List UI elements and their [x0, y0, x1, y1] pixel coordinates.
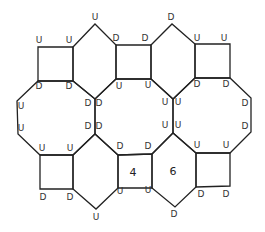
vertex-label: D [171, 209, 178, 219]
cell-numbers: 46 [130, 165, 177, 179]
vertex-label: U [221, 33, 228, 43]
square-bottom-right [196, 153, 230, 187]
vertex-label: U [194, 33, 201, 43]
vertex-label: D [113, 33, 120, 43]
vertex-label: D [66, 81, 73, 91]
vertex-label: D [145, 141, 152, 151]
vertex-label: U [66, 35, 73, 45]
square-top-right [195, 44, 230, 78]
vertex-label: D [223, 79, 230, 89]
hex-bottom-1 [73, 134, 118, 209]
vertex-label: U [223, 140, 230, 150]
square-top-left [38, 47, 73, 81]
square-top-middle [116, 45, 151, 79]
vertex-label: D [96, 121, 103, 131]
vertex-label: U [175, 97, 182, 107]
vertex-label: D [198, 189, 205, 199]
vertex-label: U [145, 80, 152, 90]
vertex-label: D [67, 192, 74, 202]
vertex-label: U [18, 123, 25, 133]
octagon-left [17, 81, 95, 155]
grid-edges [17, 24, 251, 209]
vertex-label: U [67, 143, 74, 153]
cell-number: 4 [130, 166, 137, 179]
vertex-label: U [36, 35, 43, 45]
vertex-label: D [168, 12, 175, 22]
vertex-label: U [39, 143, 46, 153]
vertex-label: U [117, 186, 124, 196]
vertex-label: D [85, 121, 92, 131]
vertex-label: U [145, 185, 152, 195]
vertex-label: D [142, 33, 149, 43]
vertex-label: D [96, 98, 103, 108]
vertex-label: D [242, 98, 249, 108]
vertex-label: U [93, 212, 100, 222]
vertex-label: D [117, 141, 124, 151]
cell-number: 6 [170, 165, 177, 178]
vertex-label: D [40, 192, 47, 202]
vertex-label: U [194, 140, 201, 150]
hex-top-2 [151, 24, 195, 99]
hex-top-1 [73, 24, 116, 99]
vertex-label: U [162, 120, 169, 130]
octagon-middle [95, 79, 173, 155]
vertex-label: D [223, 189, 230, 199]
vertex-label: U [18, 101, 25, 111]
square-bottom-left [40, 155, 73, 189]
vertex-label: D [85, 98, 92, 108]
tiling-diagram: UDUUDDUUDDUUDDUDDUUDUDDUUDUUDDUUDDUUDDUD… [0, 0, 265, 232]
vertex-label: D [242, 121, 249, 131]
vertex-label: U [116, 81, 123, 91]
vertex-label: U [92, 12, 99, 22]
vertex-label: D [36, 81, 43, 91]
octagon-right [173, 78, 251, 153]
vertex-label: U [162, 97, 169, 107]
vertex-label: U [175, 120, 182, 130]
vertex-label: D [194, 79, 201, 89]
